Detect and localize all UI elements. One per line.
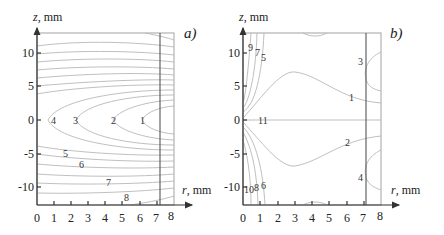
y-tick-label: 5 xyxy=(28,79,34,93)
x-tick-label: 5 xyxy=(326,211,332,225)
r-axis-label: r, mm xyxy=(391,183,421,197)
svg-text:10: 10 xyxy=(244,184,254,195)
panel-a: 10 5 0 -5 -10 0 1 2 3 4 5 6 7 8 z, mm r, xyxy=(18,10,212,225)
x-tick-label: 8 xyxy=(168,209,174,223)
x-tick-label: 2 xyxy=(68,211,74,225)
x-tick-label: 6 xyxy=(344,211,350,225)
y-tick-label: 5 xyxy=(234,79,240,93)
x-tick-label: 0 xyxy=(34,211,40,225)
panel-label-b: b) xyxy=(390,25,403,42)
y-tick-label: -10 xyxy=(18,180,34,194)
figure: 10 5 0 -5 -10 0 1 2 3 4 5 6 7 8 z, mm r, xyxy=(0,0,444,235)
x-tick-label: 8 xyxy=(377,209,383,223)
x-tick-label: 4 xyxy=(309,211,315,225)
svg-text:6: 6 xyxy=(261,180,266,191)
x-tick-label: 7 xyxy=(360,211,366,225)
x-tick-label: 1 xyxy=(257,211,263,225)
x-tick-label: 4 xyxy=(102,211,108,225)
svg-text:7: 7 xyxy=(255,47,260,58)
y-tick-label: -10 xyxy=(224,180,240,194)
panel-b: 10 5 0 -5 -10 0 1 2 3 4 5 6 7 8 z, mm r,… xyxy=(224,10,421,225)
x-tick-label: 2 xyxy=(275,211,281,225)
contour-labels: 1 2 3 4 5 6 7 8 xyxy=(51,115,145,203)
y-tick-label: 10 xyxy=(22,46,34,60)
svg-text:1: 1 xyxy=(140,115,145,126)
y-tick-label: -5 xyxy=(230,147,240,161)
svg-text:5: 5 xyxy=(261,52,266,63)
x-tick-label: 7 xyxy=(153,211,159,225)
x-tick-label: 6 xyxy=(137,211,143,225)
svg-text:8: 8 xyxy=(124,192,129,203)
svg-text:7: 7 xyxy=(106,177,111,188)
svg-text:2: 2 xyxy=(345,137,350,148)
svg-text:1: 1 xyxy=(349,92,354,103)
y-tick-label: 0 xyxy=(28,113,34,127)
z-axis-label: z, mm xyxy=(32,10,63,24)
x-tick-label: 5 xyxy=(119,211,125,225)
y-tick-label: -5 xyxy=(24,147,34,161)
svg-text:3: 3 xyxy=(73,115,78,126)
svg-text:4: 4 xyxy=(51,115,56,126)
svg-text:11: 11 xyxy=(258,115,268,126)
y-tick-label: 0 xyxy=(234,113,240,127)
x-tick-label: 3 xyxy=(292,211,298,225)
x-tick-label: 1 xyxy=(51,211,57,225)
svg-text:8: 8 xyxy=(254,182,259,193)
z-axis-label: z, mm xyxy=(238,10,269,24)
svg-text:6: 6 xyxy=(79,159,84,170)
svg-text:5: 5 xyxy=(63,148,68,159)
svg-text:2: 2 xyxy=(111,115,116,126)
r-axis-label: r, mm xyxy=(182,183,212,197)
x-tick-label: 0 xyxy=(240,211,246,225)
x-tick-label: 3 xyxy=(85,211,91,225)
svg-text:4: 4 xyxy=(358,172,363,183)
svg-text:9: 9 xyxy=(248,42,253,53)
svg-text:3: 3 xyxy=(358,56,363,67)
y-tick-label: 10 xyxy=(228,46,240,60)
panel-label-a: a) xyxy=(184,25,197,42)
